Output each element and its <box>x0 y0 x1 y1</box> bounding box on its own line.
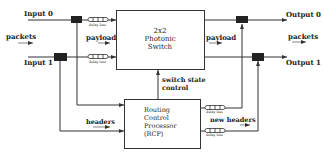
packets-out-label: packets <box>288 33 318 41</box>
headers-label: headers <box>86 118 115 126</box>
new-headers-label: new headers <box>210 116 256 124</box>
input1-splitter <box>54 53 67 61</box>
output1-label: Output 1 <box>286 59 321 67</box>
switch-state-control-label: switch state control <box>162 76 206 92</box>
delay-line-input0 <box>88 17 108 22</box>
output0-label: Output 0 <box>286 11 321 19</box>
packets-in-label: packets <box>6 33 36 41</box>
rcp-title: Routing Control Processor (RCP) <box>144 106 177 138</box>
input0-label: Input 0 <box>24 10 53 18</box>
output1-combiner <box>252 53 264 61</box>
output0-combiner <box>236 16 248 23</box>
delay-line-label-input1: delay line <box>89 60 106 64</box>
delay-line-input1 <box>88 54 108 59</box>
delay-line-label-rcp0: delay line <box>206 110 223 114</box>
input0-splitter <box>71 16 82 23</box>
input1-label: Input 1 <box>24 59 53 67</box>
switch-title: 2x2 Photonic Switch <box>130 27 190 51</box>
payload-in-label: payload <box>86 34 116 42</box>
delay-line-label-rcp1: delay line <box>206 133 223 137</box>
delay-line-label-input0: delay line <box>89 23 106 27</box>
payload-out-label: payload <box>206 34 236 42</box>
